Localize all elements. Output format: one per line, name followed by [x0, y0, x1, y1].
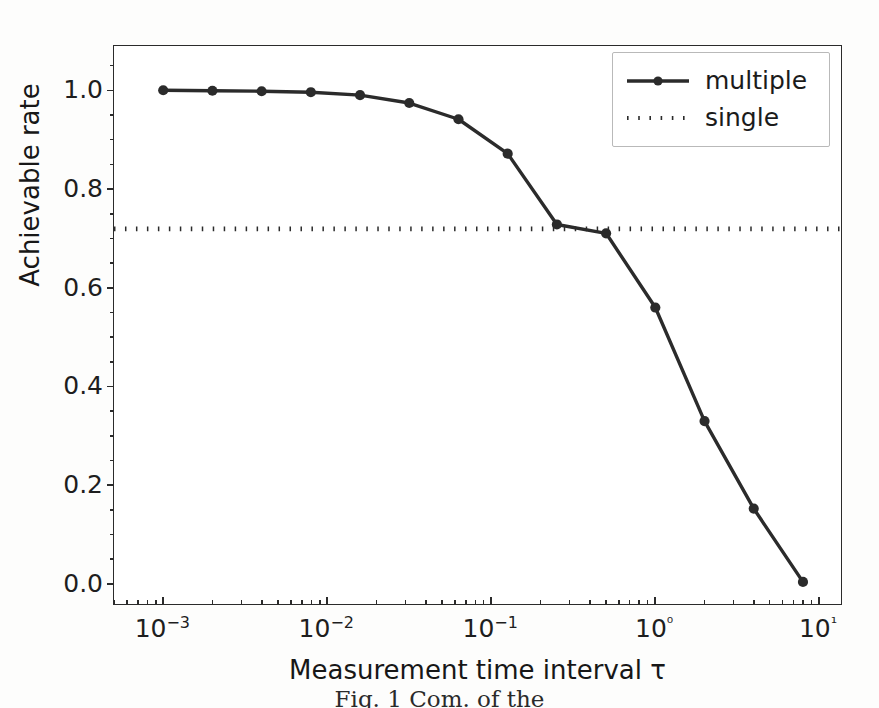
x-minor-tick [155, 600, 157, 604]
legend-sample-solid-line-icon [625, 71, 691, 91]
x-minor-tick [638, 600, 640, 604]
x-minor-tick [425, 600, 427, 604]
y-minor-tick [110, 558, 114, 560]
data-point [601, 228, 611, 238]
figure-caption: Fig. 1 Com. of the [0, 686, 879, 708]
y-minor-tick [110, 114, 114, 116]
x-minor-tick [769, 600, 771, 604]
x-minor-tick [277, 600, 279, 604]
x-minor-tick [618, 600, 620, 604]
y-tick-mark [107, 287, 114, 289]
x-minor-tick [301, 600, 303, 604]
data-point [207, 86, 217, 96]
x-tick-label: 10−1 [462, 614, 517, 643]
x-minor-tick [290, 600, 292, 604]
x-minor-tick [261, 600, 263, 604]
y-minor-tick [110, 164, 114, 166]
y-tick-mark [107, 484, 114, 486]
y-minor-tick [110, 238, 114, 240]
x-minor-tick [569, 600, 571, 604]
x-tick-mark [490, 597, 492, 604]
y-minor-tick [110, 361, 114, 363]
data-point [404, 98, 414, 108]
legend-label-multiple: multiple [705, 66, 807, 95]
y-minor-tick [110, 262, 114, 264]
x-minor-tick [454, 600, 456, 604]
y-tick-label: 0.6 [13, 272, 103, 301]
x-minor-tick [483, 600, 485, 604]
data-point [257, 86, 267, 96]
legend-label-single: single [705, 103, 779, 132]
x-tick-mark [654, 597, 656, 604]
x-minor-tick [753, 600, 755, 604]
x-minor-tick [311, 600, 313, 604]
x-axis-tick-labels: 10−310−210−110⁰10¹ [113, 614, 842, 654]
x-tick-label: 10¹ [799, 614, 837, 643]
x-minor-tick [212, 600, 214, 604]
y-tick-label: 0.2 [13, 470, 103, 499]
x-minor-tick [475, 600, 477, 604]
series-multiple-line [163, 90, 803, 582]
y-minor-tick [110, 213, 114, 215]
legend[interactable]: multiple single [612, 52, 830, 147]
x-tick-label: 10−3 [135, 614, 190, 643]
data-point [749, 504, 759, 514]
legend-item-multiple[interactable]: multiple [625, 62, 819, 99]
data-point [798, 577, 808, 587]
x-tick-mark [162, 597, 164, 604]
y-minor-tick [110, 65, 114, 67]
data-point [503, 149, 513, 159]
y-minor-tick [110, 386, 114, 388]
y-tick-mark [107, 583, 114, 585]
x-minor-tick [629, 600, 631, 604]
y-tick-mark [107, 90, 114, 92]
y-minor-tick [110, 312, 114, 314]
y-minor-tick [110, 534, 114, 536]
y-tick-label: 0.8 [13, 174, 103, 203]
x-minor-tick [589, 600, 591, 604]
y-minor-tick [110, 410, 114, 412]
y-minor-tick [110, 336, 114, 338]
series-multiple-markers [158, 85, 808, 587]
x-minor-tick [376, 600, 378, 604]
data-point [158, 85, 168, 95]
x-minor-tick [605, 600, 607, 604]
x-minor-tick [319, 600, 321, 604]
data-point [306, 87, 316, 97]
figure-canvas: 0.00.20.40.60.81.0 10−310−210−110⁰10¹ Me… [0, 0, 879, 708]
x-minor-tick [802, 600, 804, 604]
x-minor-tick [137, 600, 139, 604]
x-tick-label: 10−2 [299, 614, 354, 643]
x-minor-tick [782, 600, 784, 604]
y-tick-label: 0.0 [13, 568, 103, 597]
data-point [650, 302, 660, 312]
x-axis-title: Measurement time interval τ [113, 655, 842, 685]
x-minor-tick [704, 600, 706, 604]
data-point [552, 219, 562, 229]
x-minor-tick [241, 600, 243, 604]
x-tick-mark [326, 597, 328, 604]
y-minor-tick [110, 460, 114, 462]
x-minor-tick [405, 600, 407, 604]
x-tick-label: 10⁰ [635, 614, 673, 643]
x-minor-tick [647, 600, 649, 604]
y-tick-label: 0.4 [13, 371, 103, 400]
x-minor-tick [540, 600, 542, 604]
x-minor-tick [126, 600, 128, 604]
x-minor-tick [793, 600, 795, 604]
legend-item-single[interactable]: single [625, 99, 819, 136]
y-tick-label: 1.0 [13, 75, 103, 104]
x-minor-tick [465, 600, 467, 604]
x-minor-tick [811, 600, 813, 604]
y-minor-tick [110, 139, 114, 141]
x-minor-tick [733, 600, 735, 604]
data-point [699, 416, 709, 426]
data-point [355, 90, 365, 100]
legend-sample-dotted-line-icon [625, 108, 691, 128]
y-minor-tick [110, 509, 114, 511]
data-point [453, 114, 463, 124]
x-minor-tick [113, 600, 115, 604]
y-minor-tick [110, 435, 114, 437]
x-minor-tick [147, 600, 149, 604]
x-tick-mark [818, 597, 820, 604]
